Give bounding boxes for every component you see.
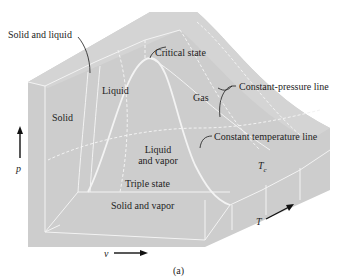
v-axis-arrow — [114, 250, 148, 256]
label-critical-state: Critical state — [155, 47, 206, 58]
label-constant-temperature-line: Constant temperature line — [214, 131, 317, 142]
label-gas: Gas — [193, 92, 209, 103]
label-solid: Solid — [52, 112, 73, 123]
axis-label-p: p — [16, 163, 21, 174]
label-solid-and-liquid: Solid and liquid — [8, 29, 72, 40]
figure-caption: (a) — [173, 265, 184, 276]
label-liquid-and-vapor-line2: and vapor — [128, 155, 188, 166]
label-triple-state: Triple state — [125, 178, 170, 189]
label-liquid-and-vapor: Liquid and vapor — [128, 144, 188, 166]
label-constant-pressure-line: Constant-pressure line — [239, 81, 329, 92]
tc-subscript: c — [264, 166, 267, 174]
label-liquid: Liquid — [102, 85, 129, 96]
label-solid-and-vapor: Solid and vapor — [111, 200, 174, 211]
p-axis-arrow — [17, 126, 23, 158]
label-liquid-and-vapor-line1: Liquid — [128, 144, 188, 155]
axis-label-v: v — [104, 248, 108, 259]
axis-label-T: T — [256, 216, 262, 227]
label-critical-temperature: Tc — [258, 160, 267, 176]
